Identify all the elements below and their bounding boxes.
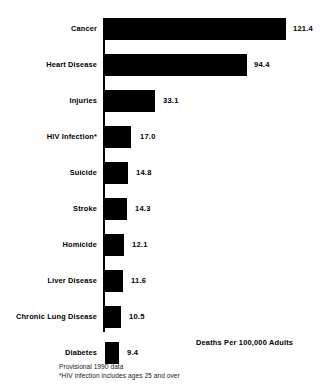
bar bbox=[105, 54, 247, 76]
bar bbox=[105, 234, 124, 256]
bar-value-label: 17.0 bbox=[140, 126, 156, 148]
bar bbox=[105, 126, 131, 148]
bar-value-label: 33.1 bbox=[163, 90, 179, 112]
footnote-line: Provisional 1990 data bbox=[59, 362, 180, 371]
bar-value-label: 9.4 bbox=[127, 342, 138, 364]
category-label: Injuries bbox=[0, 90, 97, 112]
category-label: Chronic Lung Disease bbox=[0, 306, 97, 328]
axis-caption: Deaths Per 100,000 Adults bbox=[196, 338, 293, 347]
category-label: Heart Disease bbox=[0, 54, 97, 76]
bar-row: Suicide 14.8 bbox=[0, 162, 329, 184]
bar-chart-figure: Cancer 121.4 Heart Disease 94.4 Injuries… bbox=[0, 0, 329, 384]
bar-row: Liver Disease 11.6 bbox=[0, 270, 329, 292]
bar-row: Chronic Lung Disease 10.5 bbox=[0, 306, 329, 328]
bar bbox=[105, 270, 123, 292]
bar-row: Homicide 12.1 bbox=[0, 234, 329, 256]
bar-value-label: 11.6 bbox=[131, 270, 146, 292]
category-label: Homicide bbox=[0, 234, 97, 256]
bar-value-label: 14.8 bbox=[136, 162, 152, 184]
plot-area: Cancer 121.4 Heart Disease 94.4 Injuries… bbox=[0, 18, 329, 334]
bar bbox=[105, 162, 128, 184]
category-label: Suicide bbox=[0, 162, 97, 184]
bar bbox=[105, 90, 155, 112]
bar-value-label: 10.5 bbox=[129, 306, 145, 328]
bar bbox=[105, 342, 119, 364]
bar bbox=[105, 18, 286, 40]
category-label: HIV Infection* bbox=[0, 126, 97, 148]
category-label: Liver Disease bbox=[0, 270, 97, 292]
bar-row: Cancer 121.4 bbox=[0, 18, 329, 40]
footnote-line: *HIV infection includes ages 25 and over bbox=[59, 371, 180, 380]
bar-value-label: 121.4 bbox=[293, 18, 313, 40]
bar-row: HIV Infection* 17.0 bbox=[0, 126, 329, 148]
bar-row: Stroke 14.3 bbox=[0, 198, 329, 220]
bar-row: Heart Disease 94.4 bbox=[0, 54, 329, 76]
category-label: Diabetes bbox=[0, 342, 97, 364]
footnotes: Provisional 1990 data *HIV infection inc… bbox=[59, 362, 180, 380]
bar-value-label: 94.4 bbox=[254, 54, 270, 76]
bar bbox=[105, 306, 121, 328]
category-axis-line bbox=[103, 18, 105, 332]
bar-value-label: 12.1 bbox=[132, 234, 148, 256]
bar bbox=[105, 198, 127, 220]
bar-row: Injuries 33.1 bbox=[0, 90, 329, 112]
category-label: Cancer bbox=[0, 18, 97, 40]
bar-value-label: 14.3 bbox=[135, 198, 151, 220]
category-label: Stroke bbox=[0, 198, 97, 220]
